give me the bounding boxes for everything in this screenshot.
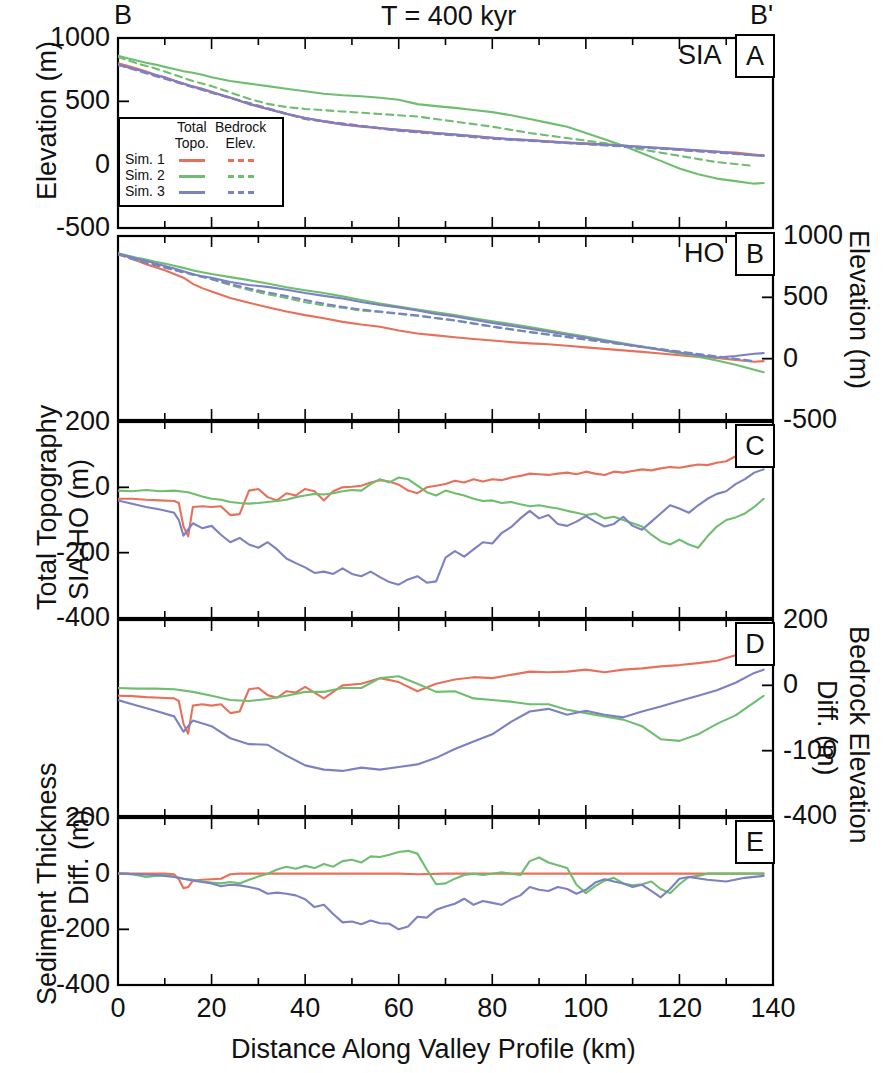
panel-id-e: E [735,820,775,864]
xtick-label: 80 [477,995,507,1022]
ytick-label-panel-b: -500 [783,406,837,433]
xtick-label: 60 [384,995,414,1022]
ytick-label-panel-a: 500 [65,87,110,114]
ytick-label-panel-a: -500 [56,214,110,241]
xtick-label: 140 [750,995,795,1022]
legend-swatch-sim1-solid [172,151,212,167]
series-line [118,254,764,362]
series-line [118,676,764,741]
figure-title: T = 400 kyr [381,3,516,30]
legend-row: Sim. 2 [120,167,269,183]
legend-swatch-sim1-dashed [212,151,269,167]
legend-label-sim1: Sim. 1 [120,151,172,167]
series-line [118,254,764,358]
ytick-label-panel-e: 0 [95,860,110,887]
ytick-label-panel-b: 0 [783,345,798,372]
ytick-label-panel-b: 1000 [783,222,843,249]
series-line [118,469,764,584]
series-line [118,646,764,734]
legend: Total Topo. Bedrock Elev. Sim. 1 Sim. 2 … [118,117,284,207]
profile-start-label: B [114,2,132,29]
series-line [118,670,764,771]
legend-header-bedrock-elev-l1: Bedrock [215,119,266,135]
ytick-label-panel-c: 0 [95,473,110,500]
legend-swatch-sim3-solid [172,183,212,199]
legend-row: Sim. 1 [120,151,269,167]
legend-header-total-topo-l2: Topo. [175,135,209,151]
legend-label-sim3: Sim. 3 [120,183,172,199]
yaxis-title-panel-c-line2: SIA-HO (m) [66,459,93,600]
panel-id-b: B [735,232,775,276]
xaxis-title: Distance Along Valley Profile (km) [231,1036,636,1063]
panel-id-a: A [735,34,775,78]
legend-swatch-sim3-dashed [212,183,269,199]
ytick-label-panel-e: -200 [56,915,110,942]
legend-header-blank [120,119,172,151]
legend-swatch-sim2-dashed [212,167,269,183]
ytick-label-panel-d: 200 [783,606,828,633]
ytick-label-panel-b: 500 [783,283,828,310]
profile-end-label: B' [750,2,773,29]
xtick-label: 40 [290,995,320,1022]
series-line [118,254,754,361]
legend-header-row: Total Topo. Bedrock Elev. [120,119,269,151]
ytick-label-panel-c: -400 [56,604,110,631]
legend-label-sim2: Sim. 2 [120,167,172,183]
ytick-label-panel-c: -200 [56,539,110,566]
series-line [118,874,764,888]
panel-id-d: D [735,622,775,666]
series-line [118,851,764,893]
panel-a-annotation: SIA [678,40,722,71]
series-line [118,254,754,362]
xtick-label: 0 [110,995,125,1022]
legend-header-total-topo-l1: Total [177,119,207,135]
legend-table: Total Topo. Bedrock Elev. Sim. 1 Sim. 2 … [120,119,269,199]
ytick-label-panel-a: 0 [95,151,110,178]
yaxis-title-panel-d-line1: Bedrock Elevation [845,626,872,844]
xtick-label: 100 [563,995,608,1022]
panel-b-annotation: HO [684,238,725,269]
xtick-label: 20 [197,995,227,1022]
legend-header-total-topo: Total Topo. [172,119,212,151]
legend-header-bedrock-elev: Bedrock Elev. [212,119,269,151]
figure-panel-stack: T = 400 kyr B B' Elevation (m) Total Top… [0,0,886,1073]
yaxis-title-panel-c-line1: Total Topography [34,405,61,610]
ytick-label-panel-c: 200 [65,408,110,435]
panel-id-c: C [735,424,775,468]
xtick-label: 120 [657,995,702,1022]
ytick-label-panel-e: 200 [65,804,110,831]
ytick-label-panel-d: -400 [783,802,837,829]
yaxis-title-panel-b: Elevation (m) [845,230,872,389]
ytick-label-panel-e: -400 [56,971,110,998]
legend-header-bedrock-elev-l2: Elev. [226,135,256,151]
series-line [118,478,764,548]
legend-row: Sim. 3 [120,183,269,199]
yaxis-title-panel-a: Elevation (m) [34,41,61,200]
ytick-label-panel-a: 1000 [50,24,110,51]
ytick-label-panel-d: -100 [783,737,837,764]
legend-swatch-sim2-solid [172,167,212,183]
ytick-label-panel-d: 0 [783,671,798,698]
